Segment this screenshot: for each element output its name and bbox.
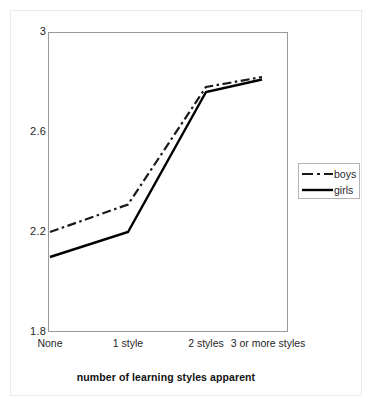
y-axis-tick-labels: 3 2.6 2.2 1.8 xyxy=(0,0,46,415)
x-axis-title: number of learning styles apparent xyxy=(16,371,316,383)
chart-lines xyxy=(48,32,288,332)
chart-legend: boys girls xyxy=(298,163,360,199)
legend-label-girls: girls xyxy=(334,184,353,197)
series-line-boys xyxy=(50,77,262,232)
y-tick-label-2-6: 2.6 xyxy=(2,126,46,137)
legend-swatch-dash-dot-icon xyxy=(302,166,333,182)
y-tick-label-1-8: 1.8 xyxy=(2,326,46,337)
x-tick-label-3-or-more: 3 or more styles xyxy=(225,337,311,350)
legend-item-girls[interactable]: girls xyxy=(299,182,361,198)
legend-item-boys[interactable]: boys xyxy=(299,166,361,182)
series-line-girls xyxy=(50,80,262,258)
figure-container: 3 2.6 2.2 1.8 None 1 style 2 styles 3 or… xyxy=(0,0,373,415)
x-tick-label-1-style: 1 style xyxy=(89,337,167,350)
legend-swatch-solid-icon xyxy=(302,182,333,198)
x-axis-tick-labels: None 1 style 2 styles 3 or more styles xyxy=(48,337,288,371)
y-tick-label-2-2: 2.2 xyxy=(2,226,46,237)
y-tick-label-3: 3 xyxy=(2,26,46,37)
legend-label-boys: boys xyxy=(334,168,356,181)
x-tick-label-none: None xyxy=(11,337,89,350)
